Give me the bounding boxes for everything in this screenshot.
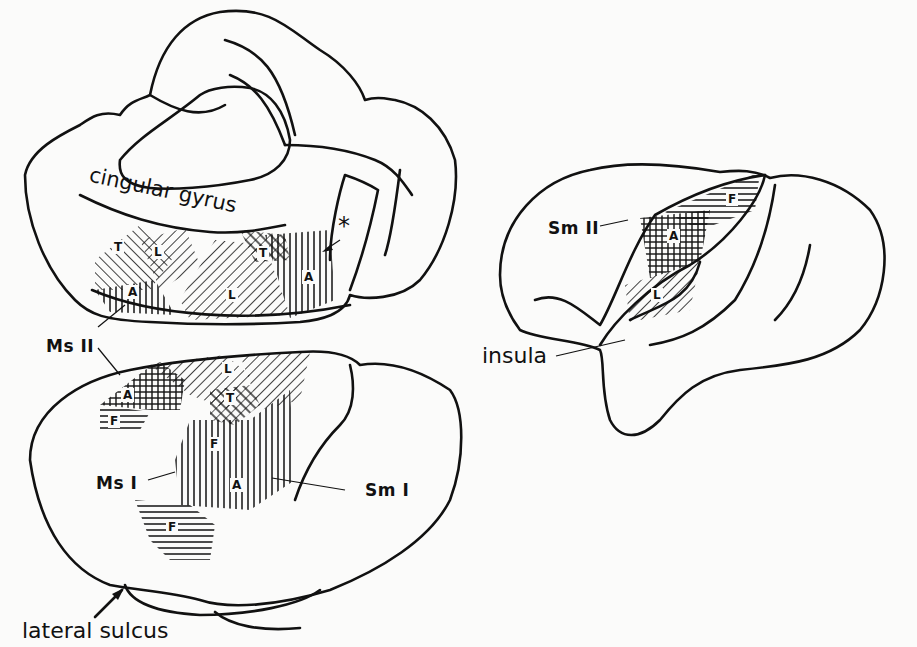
region-label-a: A: [302, 270, 315, 284]
medial-view: [25, 11, 456, 324]
sm-ii-label: Sm II: [548, 220, 599, 237]
opercular-view: [500, 164, 884, 435]
region-label-l: L: [651, 288, 663, 302]
figure-drawing: [0, 0, 917, 647]
insula-label: insula: [482, 345, 547, 367]
brain-somatotopy-figure: cingular gyrus * T L A L T A Ms II Ms I …: [0, 0, 917, 647]
region-label-l: L: [222, 362, 234, 376]
region-label-f: F: [166, 520, 178, 534]
sm-i-label: Sm I: [365, 482, 409, 499]
region-label-a: A: [121, 388, 134, 402]
region-label-f: F: [108, 414, 120, 428]
region-label-t: T: [112, 240, 124, 254]
region-label-a: A: [126, 285, 139, 299]
region-label-a: A: [667, 229, 680, 243]
region-label-l: L: [152, 245, 164, 259]
lateral-sulcus-label: lateral sulcus: [22, 620, 168, 642]
lateral-view: [30, 305, 461, 629]
region-label-t: T: [224, 391, 236, 405]
region-label-f: F: [726, 192, 738, 206]
region-label-f: F: [208, 437, 220, 451]
ms-ii-label: Ms II: [46, 338, 94, 355]
asterisk-marker: *: [338, 214, 350, 238]
region-label-a: A: [230, 478, 243, 492]
region-label-t: T: [257, 246, 269, 260]
ms-i-label: Ms I: [96, 475, 137, 492]
region-label-l: L: [226, 288, 238, 302]
